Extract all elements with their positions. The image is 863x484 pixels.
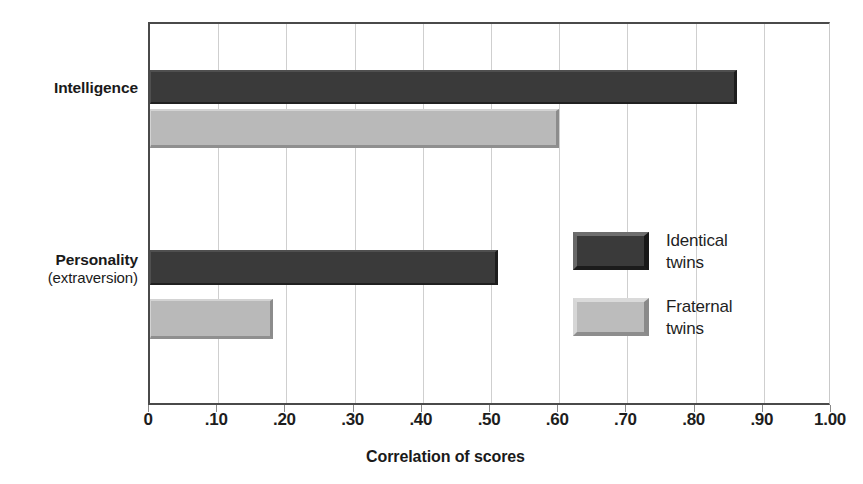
x-axis-tick-label: .80 (682, 410, 705, 430)
plot-area (148, 22, 830, 405)
x-axis-tick-label: .30 (341, 410, 364, 430)
x-axis-tick-label: .10 (205, 410, 228, 430)
legend-label-identical-twins-line1: Identical (666, 230, 728, 252)
x-axis-tick-label: .60 (546, 410, 569, 430)
x-axis-tick-label: .50 (478, 410, 501, 430)
category-label-personality-sub: (extraversion) (0, 269, 138, 288)
bar-identical-twins-personality (150, 250, 498, 285)
bar-fraternal-twins-personality (150, 299, 273, 339)
gridline (764, 24, 765, 403)
category-label-personality: Personality (extraversion) (0, 250, 138, 288)
legend-label-identical-twins: Identical twins (666, 230, 728, 275)
category-label-personality-main: Personality (0, 250, 138, 269)
x-axis-tick-label: .70 (614, 410, 637, 430)
x-axis-tick-label: .20 (273, 410, 296, 430)
legend-label-identical-twins-line2: twins (666, 252, 728, 274)
legend-label-fraternal-twins-line2: twins (666, 318, 732, 340)
bar-identical-twins-intelligence (150, 70, 737, 104)
category-label-intelligence: Intelligence (0, 78, 138, 97)
legend-label-fraternal-twins: Fraternal twins (666, 296, 732, 341)
x-axis-tick-label: 0 (143, 410, 152, 430)
legend-swatch-identical-twins (573, 232, 649, 270)
bar-fraternal-twins-intelligence (150, 109, 559, 148)
legend-item-identical-twins: Identical twins (573, 232, 728, 275)
x-axis-title: Correlation of scores (0, 448, 863, 466)
legend-swatch-fraternal-twins (573, 298, 649, 336)
x-axis-tick-label: .90 (750, 410, 773, 430)
x-axis-tick-label: .40 (409, 410, 432, 430)
twin-correlation-bar-chart: Intelligence Personality (extraversion) … (0, 0, 863, 484)
legend-label-fraternal-twins-line1: Fraternal (666, 296, 732, 318)
x-axis-tick-label: 1.00 (814, 410, 846, 430)
legend-item-fraternal-twins: Fraternal twins (573, 298, 732, 341)
category-label-intelligence-main: Intelligence (0, 78, 138, 97)
x-axis-title-text: Correlation of scores (366, 448, 525, 466)
